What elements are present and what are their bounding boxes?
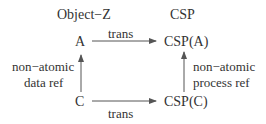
label-bottom-trans: trans bbox=[108, 106, 133, 121]
label-right-line2: process ref bbox=[193, 75, 250, 90]
node-csp-c: CSP(C) bbox=[164, 95, 208, 109]
header-csp: CSP bbox=[170, 8, 195, 22]
header-object-z: Object−Z bbox=[57, 8, 111, 22]
label-right-line1: non−atomic bbox=[193, 59, 255, 74]
label-left-line1: non−atomic bbox=[12, 59, 74, 74]
diagram-canvas: Object−Z CSP A CSP(A) C CSP(C) trans tra… bbox=[0, 0, 266, 124]
label-top-trans: trans bbox=[108, 26, 133, 41]
node-csp-a: CSP(A) bbox=[164, 35, 208, 49]
node-a: A bbox=[75, 35, 85, 49]
label-left-line2: data ref bbox=[24, 75, 63, 90]
node-c: C bbox=[75, 95, 84, 109]
